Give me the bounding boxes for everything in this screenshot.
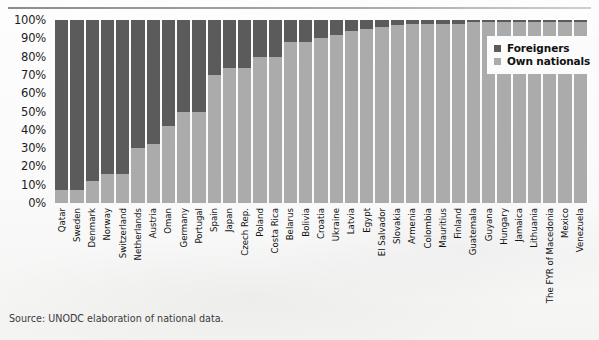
bar-segment-foreigners	[360, 20, 373, 29]
bar-column[interactable]	[466, 20, 481, 203]
bar-segment-own-nationals	[391, 25, 404, 203]
bar-column[interactable]	[268, 20, 283, 203]
bar-segment-own-nationals	[116, 174, 129, 203]
x-axis-label-item: Colombia	[420, 206, 435, 298]
bar-column[interactable]	[207, 20, 222, 203]
bar-column[interactable]	[313, 20, 328, 203]
x-axis-label-item: Costa Rica	[268, 206, 283, 298]
bar-column[interactable]	[329, 20, 344, 203]
bar-segment-own-nationals	[177, 112, 190, 204]
bar-segment-own-nationals	[253, 57, 266, 203]
x-axis-label-item: Netherlands	[130, 206, 145, 298]
bar-column[interactable]	[54, 20, 69, 203]
x-axis-label-item: Croatia	[313, 206, 328, 298]
bar-segment-foreigners	[192, 20, 205, 112]
legend-entry: Foreigners	[494, 42, 590, 54]
bar-column[interactable]	[359, 20, 374, 203]
x-axis-label-item: Qatar	[54, 206, 69, 298]
y-axis-tick-label: 20%	[21, 159, 46, 173]
bar-column[interactable]	[252, 20, 267, 203]
legend-label: Own nationals	[507, 55, 590, 67]
bar-column[interactable]	[374, 20, 389, 203]
bar-segment-own-nationals	[452, 24, 465, 203]
x-axis-label-item: Latvia	[344, 206, 359, 298]
bar-segment-own-nationals	[55, 190, 68, 203]
x-axis-label-item: Belarus	[283, 206, 298, 298]
bar-column[interactable]	[405, 20, 420, 203]
bar-column[interactable]	[344, 20, 359, 203]
x-axis-label-item: Japan	[222, 206, 237, 298]
x-axis-label-text: Qatar	[57, 208, 66, 232]
bar-segment-foreigners	[147, 20, 160, 144]
x-axis-label-item: Mexico	[557, 206, 572, 298]
bar-column[interactable]	[222, 20, 237, 203]
x-axis-label-item: Denmark	[85, 206, 100, 298]
bar-segment-foreigners	[253, 20, 266, 57]
legend-entry: Own nationals	[494, 55, 590, 67]
x-axis-label-text: Lithuania	[530, 208, 539, 248]
bar-column[interactable]	[191, 20, 206, 203]
bar-column[interactable]	[130, 20, 145, 203]
x-axis-label-item: Guatemala	[466, 206, 481, 298]
x-axis-label-text: Belarus	[286, 208, 295, 240]
bar-column[interactable]	[146, 20, 161, 203]
bar-column[interactable]	[451, 20, 466, 203]
x-axis-label-text: Venezuela	[576, 208, 585, 252]
bar-column[interactable]	[115, 20, 130, 203]
bar-segment-own-nationals	[314, 38, 327, 203]
x-axis-label-text: Guatemala	[469, 208, 478, 255]
x-axis-label-text: Armenia	[408, 208, 417, 244]
y-axis-tick-label: 10%	[21, 178, 46, 192]
x-axis-label-text: Ukraine	[332, 208, 341, 241]
bar-segment-own-nationals	[208, 75, 221, 203]
x-axis-label-item: Sweden	[69, 206, 84, 298]
x-axis-label-text: Poland	[256, 208, 265, 237]
bar-segment-foreigners	[70, 20, 83, 190]
x-axis-label-text: Slovakia	[393, 208, 402, 244]
x-axis-label-text: Egypt	[362, 208, 371, 233]
bar-segment-foreigners	[269, 20, 282, 57]
x-axis-label-text: Guyana	[484, 208, 493, 241]
bar-segment-foreigners	[131, 20, 144, 148]
bar-segment-own-nationals	[223, 68, 236, 203]
y-axis-tick-label: 40%	[21, 123, 46, 137]
x-axis-label-item: Hungary	[496, 206, 511, 298]
y-axis-tick-label: 0%	[28, 196, 46, 210]
x-axis-label-text: Czech Rep.	[240, 208, 249, 256]
bar-column[interactable]	[69, 20, 84, 203]
x-axis-label-text: Croatia	[317, 208, 326, 239]
x-axis-label-text: Netherlands	[134, 208, 143, 260]
x-axis-label-text: El Salvador	[378, 208, 387, 256]
bar-column[interactable]	[161, 20, 176, 203]
bar-column[interactable]	[420, 20, 435, 203]
x-axis-label-text: Jamaica	[515, 208, 524, 242]
x-axis-category-labels: QatarSwedenDenmarkNorwaySwitzerlandNethe…	[54, 206, 588, 298]
x-axis-label-text: Sweden	[73, 208, 82, 242]
bar-column[interactable]	[85, 20, 100, 203]
bar-segment-foreigners	[177, 20, 190, 112]
bar-segment-own-nationals	[162, 126, 175, 203]
bar-column[interactable]	[100, 20, 115, 203]
bar-column[interactable]	[176, 20, 191, 203]
x-axis-label-item: Finland	[451, 206, 466, 298]
bar-segment-own-nationals	[330, 35, 343, 203]
x-axis-label-text: Latvia	[347, 208, 356, 234]
bar-segment-own-nationals	[467, 22, 480, 203]
bar-column[interactable]	[390, 20, 405, 203]
bar-segment-foreigners	[345, 20, 358, 31]
x-axis-label-item: Norway	[100, 206, 115, 298]
x-axis-label-text: Colombia	[423, 208, 432, 248]
bar-segment-foreigners	[55, 20, 68, 190]
x-axis-label-item: Germany	[176, 206, 191, 298]
bar-segment-own-nationals	[299, 42, 312, 203]
x-axis-label-text: Hungary	[500, 208, 509, 245]
bar-column[interactable]	[237, 20, 252, 203]
source-note: Source: UNODC elaboration of national da…	[9, 313, 224, 324]
bar-column[interactable]	[435, 20, 450, 203]
bar-segment-own-nationals	[192, 112, 205, 204]
x-axis-label-text: Costa Rica	[271, 208, 280, 253]
bar-segment-foreigners	[238, 20, 251, 68]
bar-column[interactable]	[298, 20, 313, 203]
x-axis-label-item: Jamaica	[512, 206, 527, 298]
bar-column[interactable]	[283, 20, 298, 203]
